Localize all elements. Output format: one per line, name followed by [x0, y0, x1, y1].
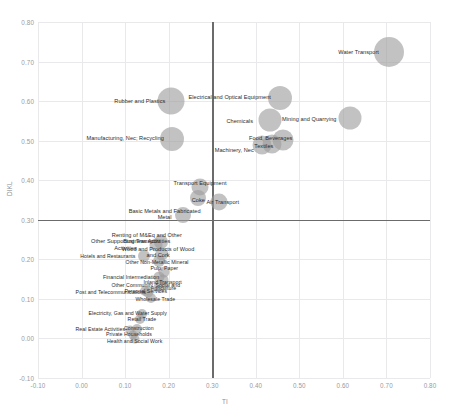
- data-point-label: Textiles: [254, 143, 273, 149]
- scatter-chart: -0.100.000.100.200.300.400.500.600.700.8…: [0, 0, 450, 419]
- plot-area: -0.100.000.100.200.300.400.500.600.700.8…: [38, 22, 430, 378]
- data-point-label: Manufacturing, Nec; Recycling: [86, 135, 163, 141]
- data-point-label: Food, Beverages: [249, 135, 292, 141]
- y-axis-tick-label: 0.20: [21, 256, 34, 263]
- data-point-bubble[interactable]: [268, 86, 292, 110]
- x-axis-tick-label: 0.80: [424, 382, 437, 389]
- x-axis-tick-label: 0.50: [293, 382, 306, 389]
- x-axis-tick-label: 0.10: [119, 382, 132, 389]
- x-axis-tick-label: 0.70: [380, 382, 393, 389]
- gridline-vertical: [38, 22, 39, 378]
- data-point-label: Air Transport: [206, 199, 239, 205]
- data-point-label: Private Households: [106, 332, 152, 338]
- data-point-label: Health and Social Work: [107, 339, 162, 345]
- data-point-label: Electrical and Optical Equipment: [188, 94, 270, 100]
- gridline-vertical: [343, 22, 344, 378]
- data-point-label: Retail Trade: [128, 318, 157, 324]
- y-axis-tick-label: -0.10: [19, 375, 34, 382]
- data-point-label: Basic Metals and Fabricated Metal: [129, 208, 201, 221]
- data-point-label: Machinery, Nec: [215, 147, 254, 153]
- x-axis-tick-label: 0.00: [75, 382, 88, 389]
- y-axis-tick-label: 0.50: [21, 137, 34, 144]
- gridline-horizontal: [38, 22, 430, 23]
- data-point-label: Post and Telecommunications: [76, 290, 146, 296]
- gridline-horizontal: [38, 101, 430, 102]
- x-axis-tick-label: 0.40: [249, 382, 262, 389]
- data-point-label: Rubber and Plastics: [114, 98, 165, 104]
- y-axis-tick-label: 0.80: [21, 19, 34, 26]
- x-axis-tick-label: 0.60: [337, 382, 350, 389]
- gridline-horizontal: [38, 378, 430, 379]
- x-axis-tick-label: 0.20: [162, 382, 175, 389]
- y-axis-tick-label: 0.00: [21, 335, 34, 342]
- x-axis-title: TI: [0, 398, 450, 405]
- data-point-label: Pulp, Paper: [150, 266, 178, 272]
- y-axis-tick-label: 0.40: [21, 177, 34, 184]
- gridline-horizontal: [38, 180, 430, 181]
- gridline-vertical: [386, 22, 387, 378]
- y-axis-tick-label: 0.30: [21, 216, 34, 223]
- reference-line-horizontal: [38, 220, 430, 222]
- gridline-vertical: [299, 22, 300, 378]
- data-point-label: Water Transport: [338, 49, 379, 55]
- y-axis-tick-label: 0.60: [21, 98, 34, 105]
- gridline-horizontal: [38, 299, 430, 300]
- x-axis-tick-label: -0.10: [31, 382, 46, 389]
- gridline-vertical: [169, 22, 170, 378]
- y-axis-tick-label: 0.70: [21, 58, 34, 65]
- gridline-vertical: [430, 22, 431, 378]
- gridline-horizontal: [38, 62, 430, 63]
- y-axis-title: DIKL: [6, 181, 13, 196]
- data-point-label: Chemicals: [226, 118, 253, 124]
- data-point-label: Transport Equipment: [174, 180, 227, 186]
- data-point-label: Coke: [192, 197, 205, 203]
- data-point-label: Electricity, Gas and Water Supply: [88, 311, 166, 317]
- gridline-horizontal: [38, 338, 430, 339]
- y-axis-tick-label: 0.10: [21, 295, 34, 302]
- x-axis-tick-label: 0.30: [206, 382, 219, 389]
- data-point-bubble[interactable]: [339, 106, 362, 129]
- data-point-label: Wholesale Trade: [135, 297, 175, 303]
- gridline-vertical: [82, 22, 83, 378]
- data-point-label: Mining and Quarrying: [282, 116, 336, 122]
- gridline-vertical: [256, 22, 257, 378]
- data-point-bubble[interactable]: [258, 108, 281, 131]
